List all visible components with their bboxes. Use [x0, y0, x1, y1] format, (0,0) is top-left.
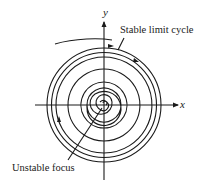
limit-cycle-label: Stable limit cycle — [120, 24, 193, 35]
limit-cycle-pointer — [118, 38, 124, 50]
focus-label: Unstable focus — [12, 162, 75, 173]
y-axis-label: y — [103, 6, 108, 18]
arrow-icon — [108, 44, 114, 48]
x-axis-label: x — [180, 98, 185, 110]
